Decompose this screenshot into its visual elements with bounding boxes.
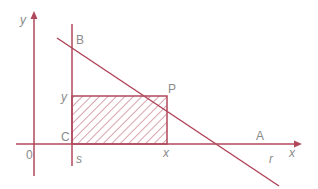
- rectangle-height-label: y: [60, 90, 68, 104]
- y-axis-arrow-icon: [31, 11, 38, 19]
- rectangle-width-label: x: [162, 146, 170, 160]
- geometry-diagram: y x 0 B P C A y x s r: [0, 0, 318, 189]
- point-a-label: A: [256, 129, 264, 143]
- hatched-rectangle: [72, 96, 167, 144]
- point-b-label: B: [76, 33, 84, 47]
- y-axis-label: y: [19, 13, 27, 27]
- x-axis-arrow-icon: [294, 141, 302, 148]
- point-p-label: P: [168, 82, 176, 96]
- x-axis-label: x: [288, 146, 296, 160]
- origin-label: 0: [26, 148, 33, 162]
- line-s-label: s: [76, 152, 82, 166]
- point-c-label: C: [61, 130, 70, 144]
- line-r-label: r: [269, 152, 274, 166]
